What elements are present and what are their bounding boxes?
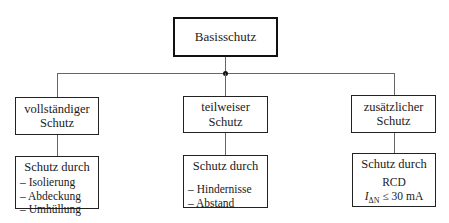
category-zusaetzlicher-schutz: zusätzlicher Schutz: [351, 95, 436, 133]
category-title-line2: Schutz: [40, 116, 74, 130]
list-item: – Isolierung: [20, 176, 98, 189]
rcd-condition: IΔN ≤ 30 mA: [353, 190, 435, 206]
root-label: Basisschutz: [195, 30, 256, 45]
list-item: – Abstand: [188, 197, 267, 210]
detail-zusaetzlicher-schutz: Schutz durch RCD IΔN ≤ 30 mA: [352, 153, 436, 207]
detail-teilweiser-schutz: Schutz durch – Hindernisse – Abstand: [183, 155, 268, 208]
list-item: – Abdeckung: [20, 190, 98, 203]
detail-heading: Schutz durch: [16, 160, 98, 174]
list-item: – Umhüllung: [20, 203, 98, 216]
rcd-text: RCD IΔN ≤ 30 mA: [353, 176, 435, 206]
root-node-basisschutz: Basisschutz: [173, 17, 278, 57]
connector-right-bottom: [394, 133, 395, 153]
detail-vollstaendiger-schutz: Schutz durch – Isolierung – Abdeckung – …: [15, 156, 99, 209]
category-title-line2: Schutz: [376, 114, 410, 128]
detail-heading: Schutz durch: [184, 159, 267, 173]
connector-right-top: [394, 73, 395, 95]
connector-left-bottom: [57, 135, 58, 156]
detail-list: – Isolierung – Abdeckung – Umhüllung: [16, 176, 98, 216]
category-title-line1: teilweiser: [201, 100, 250, 114]
connector-left-top: [57, 73, 58, 97]
condition-value: ≤ 30 mA: [380, 190, 424, 202]
category-title-line1: vollständiger: [24, 102, 89, 116]
detail-list: – Hindernisse – Abstand: [184, 183, 267, 209]
rcd-label: RCD: [353, 176, 435, 190]
category-vollstaendiger-schutz: vollständiger Schutz: [15, 97, 99, 135]
detail-heading: Schutz durch: [353, 157, 435, 171]
list-item: – Hindernisse: [188, 183, 267, 196]
current-subscript: ΔN: [369, 196, 380, 205]
connector-mid-top: [225, 73, 226, 96]
category-title-line2: Schutz: [208, 115, 242, 129]
connector-mid-bottom: [225, 133, 226, 155]
category-teilweiser-schutz: teilweiser Schutz: [183, 96, 268, 133]
category-title-line1: zusätzlicher: [364, 100, 424, 114]
